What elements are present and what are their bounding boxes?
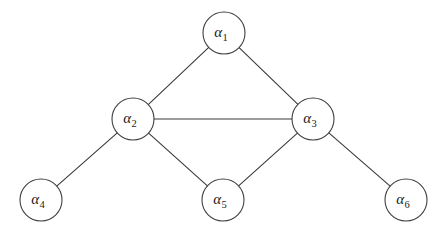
graph-canvas: α1α2α3α4α5α6 — [0, 0, 445, 234]
graph-node-a2[interactable]: α2 — [112, 98, 154, 140]
graph-edge-a2-a4 — [57, 133, 117, 186]
graph-node-a5[interactable]: α5 — [202, 179, 244, 221]
node-subscript-a2: 2 — [132, 118, 137, 129]
graph-edge-a1-a3 — [239, 48, 298, 105]
graph-node-a4[interactable]: α4 — [20, 179, 62, 221]
graph-edge-a1-a2 — [148, 47, 208, 104]
node-layer: α1α2α3α4α5α6 — [20, 12, 427, 221]
graph-edge-a2-a5 — [149, 133, 208, 186]
node-subscript-a5: 5 — [222, 199, 227, 210]
edge-layer — [57, 47, 390, 186]
graph-edge-a3-a5 — [239, 133, 298, 186]
node-subscript-a6: 6 — [405, 199, 410, 210]
graph-node-a3[interactable]: α3 — [292, 98, 334, 140]
graph-node-a6[interactable]: α6 — [385, 179, 427, 221]
graph-diagram: α1α2α3α4α5α6 — [0, 0, 445, 234]
graph-edge-a3-a6 — [329, 133, 390, 186]
graph-node-a1[interactable]: α1 — [203, 12, 245, 54]
node-subscript-a4: 4 — [40, 199, 46, 210]
node-subscript-a3: 3 — [312, 118, 317, 129]
node-subscript-a1: 1 — [223, 32, 228, 43]
